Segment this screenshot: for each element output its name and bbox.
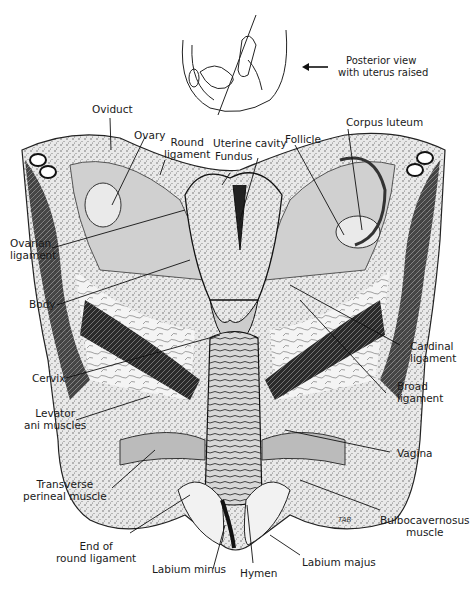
label-transverse-perineal: Transverse perineal muscle — [23, 478, 107, 502]
label-uterine-cavity: Uterine cavity — [213, 137, 287, 149]
label-bulbo-line1: Bulbocavernosus — [380, 514, 470, 526]
artist-signature: TAB — [338, 516, 351, 524]
label-cardinal-line2: ligament — [410, 352, 456, 364]
label-levator-line1: Levator — [24, 407, 86, 419]
label-cardinal-line1: Cardinal — [410, 340, 456, 352]
label-cardinal-ligament: Cardinal ligament — [410, 340, 456, 364]
left-arrow-icon — [302, 63, 328, 71]
label-levator-ani: Levator ani muscles — [24, 407, 86, 431]
label-end-round-line2: round ligament — [56, 552, 136, 564]
label-bulbo-line2: muscle — [380, 526, 470, 538]
label-broad-line2: ligament — [397, 392, 443, 404]
label-broad-line1: Broad — [397, 380, 443, 392]
label-round-ligament-line1: Round — [164, 136, 210, 148]
label-cervix: Cervix — [32, 372, 65, 384]
label-fundus: Fundus — [215, 150, 253, 162]
label-bulbocavernosus: Bulbocavernosus muscle — [380, 514, 470, 538]
left-ovary — [85, 183, 121, 227]
label-labium-majus: Labium majus — [302, 556, 376, 568]
inset-caption: Posterior view with uterus raised — [338, 55, 428, 79]
label-round-ligament-line2: ligament — [164, 148, 210, 160]
inset-caption-line1: Posterior view — [338, 55, 428, 67]
label-oviduct: Oviduct — [92, 103, 133, 115]
label-transverse-line1: Transverse — [23, 478, 107, 490]
label-vagina: Vagina — [397, 447, 432, 459]
label-broad-ligament: Broad ligament — [397, 380, 443, 404]
label-round-ligament: Round ligament — [164, 136, 210, 160]
label-hymen: Hymen — [240, 567, 277, 579]
inset-sagittal-sketch — [182, 15, 286, 115]
label-ovarian-ligament: Ovarian ligament — [10, 237, 56, 261]
vagina — [205, 332, 262, 506]
label-ovary: Ovary — [134, 129, 165, 141]
label-body: Body — [29, 298, 56, 310]
inset-caption-line2: with uterus raised — [338, 67, 428, 79]
label-end-round-line1: End of — [56, 540, 136, 552]
label-labium-minus: Labium minus — [152, 563, 226, 575]
label-levator-line2: ani muscles — [24, 419, 86, 431]
label-follicle: Follicle — [285, 133, 321, 145]
label-end-of-round-ligament: End of round ligament — [56, 540, 136, 564]
label-transverse-line2: perineal muscle — [23, 490, 107, 502]
label-corpus-luteum: Corpus luteum — [346, 116, 423, 128]
label-ovarian-ligament-line1: Ovarian — [10, 237, 56, 249]
label-ovarian-ligament-line2: ligament — [10, 249, 56, 261]
